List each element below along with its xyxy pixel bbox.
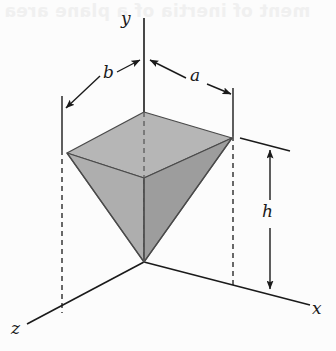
inverted-pyramid-solid: [67, 112, 232, 262]
dimension-a-arrow-inner: [150, 60, 186, 78]
dimension-a-arrow-outer: [207, 84, 231, 94]
z-axis-label: z: [11, 320, 20, 337]
dimension-h-tick-top: [240, 138, 290, 151]
y-axis-label: y: [121, 10, 131, 27]
dimension-label-a: a: [190, 67, 200, 84]
figure-drawing: [0, 0, 336, 351]
dimension-b-arrow-inner: [117, 60, 140, 72]
dimension-b-arrow-outer: [66, 76, 100, 108]
pyramid-figure: ment of inertia of a plane area: [0, 0, 336, 351]
x-axis-line: [144, 262, 310, 305]
z-axis-line: [27, 262, 144, 324]
x-axis-label: x: [312, 300, 322, 317]
dimension-label-b: b: [103, 64, 114, 81]
dimension-label-h: h: [262, 203, 273, 220]
